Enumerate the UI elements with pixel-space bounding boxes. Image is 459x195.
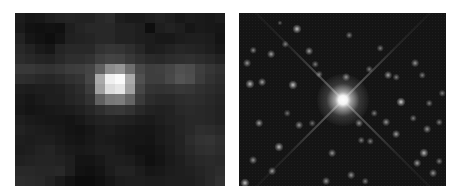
pixel: [75, 115, 85, 125]
pixel: [205, 64, 215, 74]
star: [366, 66, 373, 73]
pixel: [115, 44, 125, 54]
star: [439, 90, 446, 97]
pixel: [125, 176, 135, 186]
pixel: [105, 33, 115, 43]
pixel: [175, 94, 185, 104]
pixel: [135, 74, 145, 84]
pixelated-star-image: [15, 13, 225, 186]
pixel: [195, 176, 205, 186]
pixel: [135, 84, 145, 94]
pixel: [35, 145, 45, 155]
pixel: [65, 155, 75, 165]
pixel: [25, 145, 35, 155]
pixel: [85, 23, 95, 33]
pixel: [15, 115, 25, 125]
pixel: [195, 54, 205, 64]
pixel: [185, 44, 195, 54]
pixel: [195, 115, 205, 125]
pixel: [35, 125, 45, 135]
pixel: [195, 155, 205, 165]
pixel: [25, 84, 35, 94]
pixel: [55, 115, 65, 125]
pixel: [215, 84, 225, 94]
pixel: [25, 166, 35, 176]
pixel: [75, 64, 85, 74]
star: [295, 121, 303, 129]
pixel: [35, 33, 45, 43]
pixel: [95, 125, 105, 135]
pixel: [175, 145, 185, 155]
star: [392, 130, 400, 138]
pixel: [45, 44, 55, 54]
pixel: [75, 125, 85, 135]
star: [413, 159, 421, 167]
pixel: [35, 166, 45, 176]
pixel: [125, 84, 135, 94]
star: [305, 47, 313, 55]
pixel: [155, 176, 165, 186]
pixel: [25, 64, 35, 74]
star: [423, 125, 431, 133]
pixel: [65, 145, 75, 155]
pixel: [115, 64, 125, 74]
star: [347, 171, 355, 179]
pixel: [105, 176, 115, 186]
pixel: [85, 84, 95, 94]
pixel: [65, 54, 75, 64]
pixel: [175, 64, 185, 74]
pixel: [85, 125, 95, 135]
pixel: [55, 44, 65, 54]
star: [358, 137, 365, 144]
pixel: [135, 94, 145, 104]
pixel: [175, 125, 185, 135]
pixel: [155, 13, 165, 23]
pixel: [35, 94, 45, 104]
pixel: [205, 105, 215, 115]
pixel: [205, 44, 215, 54]
pixel: [135, 54, 145, 64]
pixel: [185, 135, 195, 145]
pixel: [205, 54, 215, 64]
pixel: [215, 166, 225, 176]
pixel: [105, 145, 115, 155]
pixel: [145, 54, 155, 64]
pixel: [155, 54, 165, 64]
pixel: [25, 94, 35, 104]
pixel: [155, 94, 165, 104]
pixel: [45, 23, 55, 33]
pixel: [195, 74, 205, 84]
pixel: [95, 13, 105, 23]
pixel: [75, 155, 85, 165]
pixel: [15, 166, 25, 176]
pixel: [175, 44, 185, 54]
pixel: [65, 105, 75, 115]
pixel: [55, 155, 65, 165]
pixel: [45, 94, 55, 104]
star: [362, 178, 369, 185]
pixel: [35, 155, 45, 165]
pixel: [75, 54, 85, 64]
star: [284, 110, 291, 117]
pixel: [195, 125, 205, 135]
pixel: [135, 166, 145, 176]
pixel: [65, 44, 75, 54]
pixel: [35, 74, 45, 84]
pixel: [45, 166, 55, 176]
pixel: [85, 176, 95, 186]
pixel: [85, 105, 95, 115]
pixel: [15, 54, 25, 64]
pixel: [25, 13, 35, 23]
pixel: [145, 176, 155, 186]
pixel: [195, 166, 205, 176]
pixel: [155, 84, 165, 94]
pixel: [75, 176, 85, 186]
pixel: [55, 105, 65, 115]
pixel: [55, 23, 65, 33]
pixel: [45, 74, 55, 84]
pixel: [125, 64, 135, 74]
pixel: [45, 33, 55, 43]
pixel: [55, 64, 65, 74]
pixel: [215, 94, 225, 104]
pixel: [145, 135, 155, 145]
